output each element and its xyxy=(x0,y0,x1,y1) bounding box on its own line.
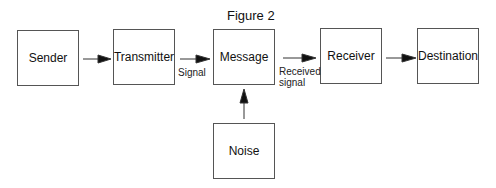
arrow-message-to-receiver xyxy=(283,54,316,62)
arrows-layer xyxy=(0,0,496,188)
arrow-sender-to-transmitter xyxy=(83,55,111,63)
arrow-receiver-to-destination xyxy=(386,54,416,62)
edge-label-signal: Signal xyxy=(178,67,206,79)
edge-label-received-signal: signal xyxy=(279,77,305,89)
arrow-transmitter-to-message xyxy=(180,55,210,63)
arrow-noise-to-message xyxy=(240,89,248,119)
